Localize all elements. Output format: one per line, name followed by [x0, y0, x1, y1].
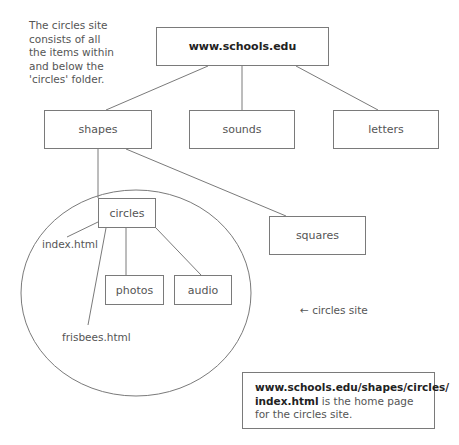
node-sounds-label: sounds — [222, 123, 261, 136]
node-squares: squares — [269, 216, 366, 255]
node-shapes-label: shapes — [79, 123, 118, 136]
node-audio: audio — [174, 275, 232, 305]
circles-site-label: ← circles site — [300, 304, 368, 316]
node-letters: letters — [333, 110, 439, 149]
home-page-note: www.schools.edu/shapes/circles/ index.ht… — [242, 372, 435, 429]
file-frisbees-html: frisbees.html — [62, 331, 131, 343]
node-squares-label: squares — [296, 229, 339, 242]
node-circles-label: circles — [110, 207, 145, 220]
node-letters-label: letters — [368, 123, 403, 136]
node-photos: photos — [105, 275, 164, 305]
node-root: www.schools.edu — [156, 27, 329, 66]
node-sounds: sounds — [189, 110, 295, 149]
node-photos-label: photos — [116, 284, 153, 297]
file-index-html: index.html — [42, 238, 98, 250]
node-shapes: shapes — [44, 110, 152, 149]
node-root-label: www.schools.edu — [189, 40, 297, 53]
node-circles: circles — [98, 198, 156, 228]
site-description: The circles site consists of all the ite… — [29, 19, 119, 87]
node-audio-label: audio — [188, 284, 218, 297]
